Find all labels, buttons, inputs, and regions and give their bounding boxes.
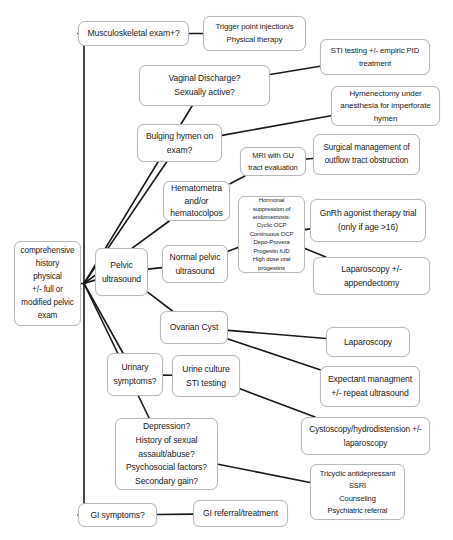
node-line: endometriosis: [253,214,291,221]
edge-hormonal-to-laparoscopy_appy [305,248,326,257]
node-line: Secondary gain? [135,476,198,486]
node-line: GI symptoms? [90,510,144,520]
edge-pelvic_ultrasound-to-normal_pelvic_us [148,268,162,270]
edge-normal_pelvic_us-to-hormonal [228,247,238,251]
node-gi_referral: GI referral/treatment [193,500,288,527]
node-line: MRI with GU [252,151,294,160]
node-line: hymen [374,114,398,124]
node-psych_treatment: Tricyclic antidepressantSSRICounselingPs… [310,464,405,520]
node-line: +/- full or [32,285,63,295]
edge-hematometra-to-mri_gu [230,176,245,184]
node-line: GnRh agonist therapy trial [320,208,417,218]
node-line: Depression? [143,421,190,431]
edge-ovarian_cyst-to-expectant [228,339,320,370]
node-line: Surgical management of [323,143,409,153]
node-laparoscopy: Laparoscopy [326,327,410,357]
node-ovarian_cyst: Ovarian Cyst [160,311,228,344]
node-line: Trigger point injection/s [215,22,293,32]
node-line: anesthesia for imperforate [340,101,430,111]
node-sti_pid: STI testing +/- empiric PIDtreatment [320,39,430,75]
edge-ovarian_cyst-to-laparoscopy [228,330,326,338]
node-line: Depo-Provera [253,239,289,246]
node-line: assault/abuse? [138,449,194,459]
flowchart-canvas: comprehensivehistoryphysical+/- full orm… [0,0,453,540]
node-start: comprehensivehistoryphysical+/- full orm… [14,241,81,326]
node-line: treatment [359,59,391,69]
node-laparoscopy_appy: Laparoscopy +/-appendectomy [313,257,430,295]
node-line: laparoscopy [344,438,388,448]
node-line: history [36,259,59,269]
node-pelvic_ultrasound: Pelvicultrasound [95,248,148,296]
node-cystoscopy: Cystoscopy/hydrodistension +/-laparoscop… [301,417,430,455]
node-line: comprehensive [20,246,74,256]
node-line: ultrasound [175,266,214,276]
edge-psychosocial-to-psych_treatment [218,464,310,482]
node-hormonal: Hormonalsuppression ofendometriosis:Cycl… [238,196,305,273]
node-line: (only if age >16) [338,222,398,232]
node-expectant: Expectant managment+/- repeat ultrasound [320,366,420,407]
node-line: Hematometra [171,183,222,193]
node-gnrh: GnRh agonist therapy trial(only if age >… [310,199,426,242]
node-line: Musculoskeletal exam+? [87,28,179,38]
node-musculoskeletal: Musculoskeletal exam+? [78,21,189,46]
node-line: physical [33,272,62,282]
node-line: Laparoscopy +/- [341,264,401,274]
node-line: suppression of [253,206,291,213]
node-line: modified pelvic [21,298,73,308]
edge-vaginal_discharge-to-sti_pid [270,66,320,74]
node-line: Psychiatric referral [328,506,388,515]
node-line: outflow tract obstruction [325,156,409,166]
node-line: and/or [185,196,209,206]
node-mri_gu: MRI with GUtract evaluation [240,147,306,176]
node-surgical_outflow: Surgical management ofoutflow tract obst… [313,134,420,175]
edge-start-to-psychosocial [84,284,149,419]
node-line: Cystoscopy/hydrodistension +/- [309,424,422,434]
node-line: Pelvic [110,260,132,270]
node-hematometra: Hematometraand/orhematocolpos [163,181,230,221]
edge-mri_gu-to-surgical_outflow [306,159,313,160]
node-line: Continuous OCP [250,231,294,238]
node-bulging_hymen: Bulging hymen onexam? [137,124,222,162]
node-line: tract evaluation [248,163,297,172]
node-line: STI testing [186,378,226,388]
node-hymenectomy: Hymenectomy underanesthesia for imperfor… [331,86,440,126]
edge-pelvic_ultrasound-to-ovarian_cyst [148,292,172,311]
node-vaginal_discharge: Vaginal Discharge?Sexually active? [139,65,270,106]
edge-start-to-pelvic_ultrasound [84,280,95,283]
node-line: ultrasound [102,274,141,284]
node-line: appendectomy [344,278,399,288]
node-line: Laparoscopy [344,337,392,347]
node-line: Physical therapy [227,35,283,45]
node-line: Cyclic OCP [257,222,287,229]
node-trigger_point: Trigger point injection/sPhysical therap… [203,16,306,51]
node-line: Bulging hymen on [146,131,213,141]
node-line: Tricyclic antidepressant [320,469,395,478]
node-line: Vaginal Discharge? [168,73,240,83]
edge-bulging_hymen-to-hymenectomy [222,116,331,136]
node-line: Urinary [122,362,149,372]
node-line: Psychosocial factors? [126,462,207,472]
node-line: GI referral/treatment [203,508,278,518]
node-line: Ovarian Cyst [170,322,218,332]
node-urinary_symptoms: Urinarysymptoms? [107,353,163,396]
node-gi_symptoms: GI symptoms? [78,503,157,527]
node-psychosocial: Depression?History of sexualassault/abus… [115,418,218,490]
node-line: Urine culture [182,364,229,374]
node-line: Hormonal [259,197,284,204]
node-line: symptoms? [113,376,156,386]
node-line: exam [38,311,58,321]
node-line: High dose oral [253,256,290,263]
node-line: Normal pelvic [170,252,221,262]
node-urine_culture: Urine cultureSTI testing [172,355,240,397]
node-line: Sexually active? [174,87,235,97]
node-line: Hymenectomy under [349,89,421,99]
node-line: +/- repeat ultrasound [331,388,408,398]
node-line: progestins [258,265,285,272]
node-line: Counseling [339,494,375,503]
edge-urine_culture-to-cystoscopy [240,389,315,417]
node-line: SSRI [349,481,366,490]
node-line: hematocolpos [170,208,222,218]
node-line: exam? [167,145,192,155]
node-line: STI testing +/- empiric PID [331,46,419,56]
node-line: History of sexual [136,435,198,445]
